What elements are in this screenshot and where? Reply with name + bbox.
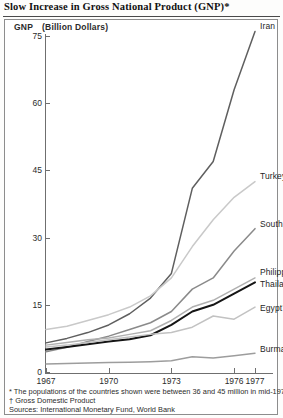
series-line-turkey bbox=[46, 182, 255, 330]
series-line-southkorea bbox=[46, 229, 255, 352]
footnote-gdp: † Gross Domestic Product bbox=[9, 396, 277, 405]
series-label-thailand: Thailand bbox=[260, 279, 283, 289]
series-line-burma bbox=[46, 353, 255, 364]
series-label-philippines: Philippines bbox=[260, 267, 283, 277]
series-label-burma: Burma† bbox=[260, 344, 283, 354]
footnote-populations: * The populations of the countries shown… bbox=[9, 387, 277, 396]
series-label-southkorea: South Korea bbox=[260, 219, 283, 229]
series-label-egypt: Egypt† bbox=[260, 303, 283, 313]
chart-page: Slow Increase in Gross National Product … bbox=[0, 0, 283, 418]
footnote-sources: Sources: International Monetary Fund, Wo… bbox=[9, 405, 277, 414]
series-label-turkey: Turkey bbox=[260, 171, 283, 181]
series-label-iran: Iran bbox=[260, 21, 275, 31]
chart-lines bbox=[0, 0, 283, 418]
footnotes: * The populations of the countries shown… bbox=[9, 387, 277, 414]
series-line-thailand bbox=[46, 282, 255, 349]
